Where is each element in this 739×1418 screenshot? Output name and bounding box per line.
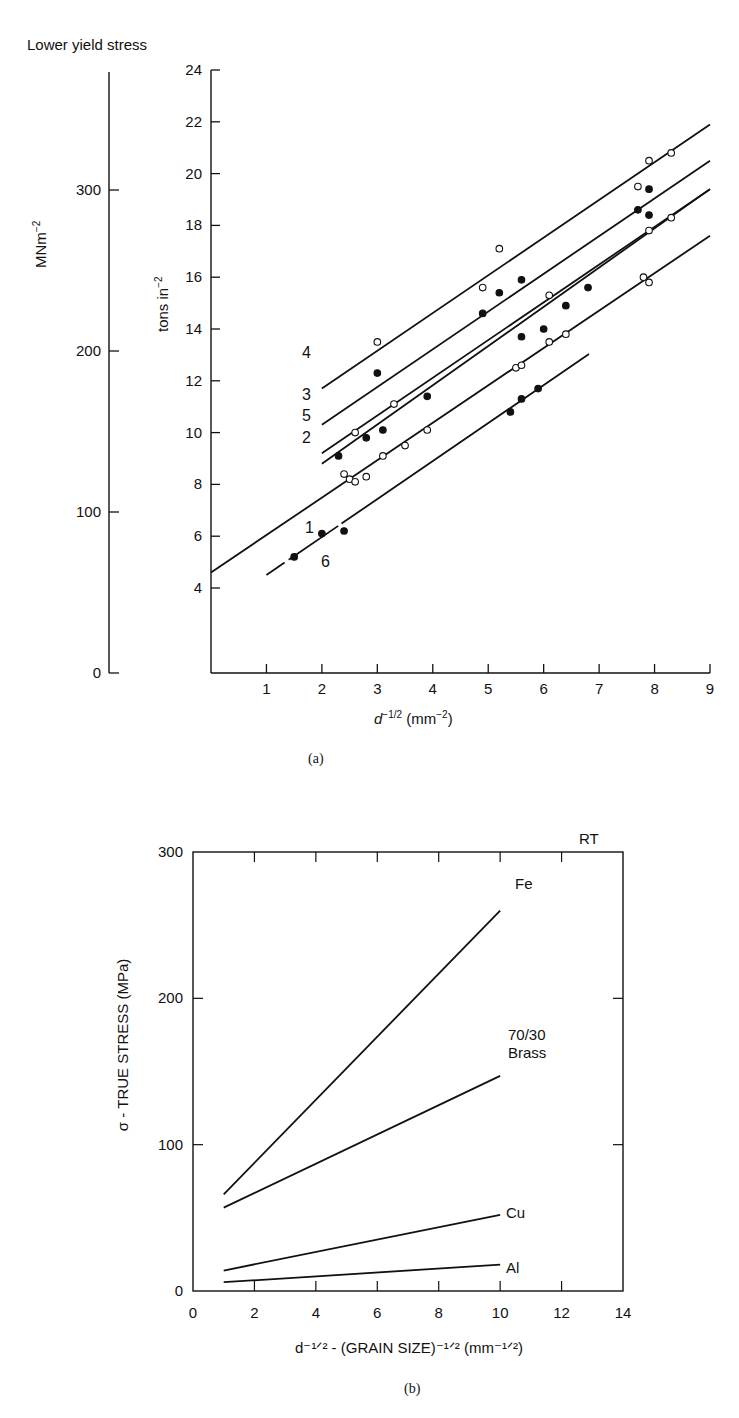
- y-tick-label: 16: [185, 268, 202, 285]
- panel-b-caption: (b): [404, 1381, 421, 1397]
- x-tick-label: 6: [539, 680, 547, 697]
- data-point: [646, 157, 653, 164]
- panel-a-caption: (a): [308, 751, 324, 767]
- series-line-1: [211, 236, 710, 573]
- secondary-y-tick-label: 200: [76, 342, 101, 359]
- series-label-4: 4: [302, 344, 311, 361]
- data-point: [635, 207, 642, 214]
- y-tick-label: 22: [185, 113, 202, 130]
- chart-b-y-axis-label: σ - TRUE STRESS (MPa): [114, 959, 131, 1132]
- data-point: [646, 227, 653, 234]
- secondary-y-tick-label: 0: [93, 664, 101, 681]
- data-point: [640, 274, 647, 281]
- series-label-cu: Cu: [506, 1204, 525, 1221]
- data-point: [352, 429, 359, 436]
- data-point: [540, 326, 547, 333]
- series-label-al: Al: [506, 1259, 519, 1276]
- data-point: [668, 150, 675, 157]
- data-point: [341, 471, 348, 478]
- data-point: [668, 214, 675, 221]
- series-line-fe: [224, 911, 500, 1195]
- y-tick-label: 4: [194, 579, 202, 596]
- data-point: [319, 530, 326, 537]
- series-line-3: [322, 161, 710, 425]
- x-tick-label: 3: [373, 680, 381, 697]
- chart-a-y-axis-label: tons in−2: [153, 276, 171, 332]
- data-point: [535, 385, 542, 392]
- data-point: [646, 279, 653, 286]
- y-tick-label: 12: [185, 372, 202, 389]
- data-point: [424, 427, 431, 434]
- data-point: [380, 453, 387, 460]
- y-tick-label: 14: [185, 320, 202, 337]
- series-label-6: 6: [321, 553, 330, 570]
- data-point: [646, 212, 653, 219]
- series-label-brass-line2: Brass: [508, 1044, 546, 1061]
- data-point: [479, 284, 486, 291]
- y-tick-label: 18: [185, 216, 202, 233]
- series-line-cu: [224, 1215, 500, 1271]
- chart-a-title: Lower yield stress: [27, 36, 147, 53]
- data-point: [335, 453, 342, 460]
- secondary-y-tick-label: 300: [76, 181, 101, 198]
- data-point: [518, 396, 525, 403]
- data-point: [363, 434, 370, 441]
- chart-b-x-axis-label: d⁻¹ᐟ² - (GRAIN SIZE)⁻¹ᐟ² (mm⁻¹ᐟ²): [295, 1339, 523, 1356]
- series-line-al: [224, 1265, 500, 1283]
- figure: 4681012141618202224123456789010020030012…: [0, 0, 739, 1418]
- x-tick-label: 4: [312, 1304, 320, 1321]
- x-tick-label: 6: [373, 1304, 381, 1321]
- data-point: [546, 292, 553, 299]
- series-label-brass-line1: 70/30: [508, 1026, 546, 1043]
- x-tick-label: 10: [492, 1304, 509, 1321]
- data-point: [424, 393, 431, 400]
- y-tick-label: 24: [185, 61, 202, 78]
- series-line-4: [322, 124, 710, 388]
- series-label-fe: Fe: [515, 875, 533, 892]
- x-tick-label: 1: [262, 680, 270, 697]
- x-tick-label: 14: [615, 1304, 632, 1321]
- data-point: [518, 333, 525, 340]
- chart-b-plot-frame: [193, 852, 623, 1291]
- y-tick-label: 6: [194, 527, 202, 544]
- series-label-2: 2: [302, 429, 311, 446]
- data-point: [496, 289, 503, 296]
- chart-b-rt-annotation: RT: [579, 830, 599, 847]
- data-point: [391, 401, 398, 408]
- series-line-6: [266, 347, 599, 575]
- data-point: [496, 245, 503, 252]
- chart-b: 024681012140100200300: [158, 843, 631, 1321]
- series-label-3: 3: [302, 386, 311, 403]
- x-tick-label: 0: [189, 1304, 197, 1321]
- data-point: [546, 339, 553, 346]
- data-point: [518, 276, 525, 283]
- x-tick-label: 2: [318, 680, 326, 697]
- data-point: [585, 284, 592, 291]
- series-line-70-30-brass: [224, 1076, 500, 1208]
- chart-a-secondary-y-axis-label: MNm−2: [31, 220, 49, 268]
- x-tick-label: 2: [250, 1304, 258, 1321]
- data-point: [402, 442, 409, 449]
- chart-a-x-axis-label: d−1/2 (mm−2): [374, 709, 453, 727]
- data-point: [518, 362, 525, 369]
- chart-a: 4681012141618202224123456789010020030012…: [76, 61, 714, 697]
- data-point: [341, 528, 348, 535]
- data-point: [374, 370, 381, 377]
- data-point: [507, 409, 514, 416]
- x-tick-label: 8: [650, 680, 658, 697]
- data-point: [479, 310, 486, 317]
- data-point: [352, 479, 359, 486]
- x-tick-label: 5: [484, 680, 492, 697]
- y-tick-label: 300: [158, 843, 183, 860]
- secondary-y-tick-label: 100: [76, 503, 101, 520]
- data-point: [374, 339, 381, 346]
- x-tick-label: 9: [706, 680, 714, 697]
- y-tick-label: 10: [185, 424, 202, 441]
- data-point: [635, 183, 642, 190]
- data-point: [563, 302, 570, 309]
- y-tick-label: 100: [158, 1136, 183, 1153]
- y-tick-label: 0: [175, 1282, 183, 1299]
- x-tick-label: 12: [553, 1304, 570, 1321]
- data-point: [291, 554, 298, 561]
- data-point: [363, 473, 370, 480]
